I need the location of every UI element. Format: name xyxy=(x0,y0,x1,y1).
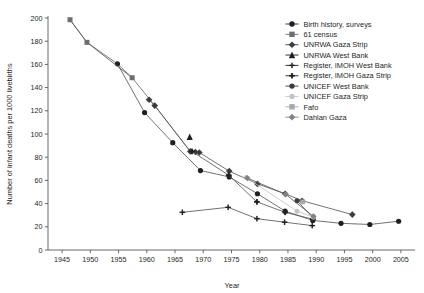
infant-mortality-line-chart: 0204060801001201401601802001945195019551… xyxy=(0,0,424,293)
x-tick-label: 1950 xyxy=(82,255,98,264)
data-point-marker xyxy=(284,219,285,225)
legend-marker-icon xyxy=(291,75,293,77)
data-point-marker xyxy=(142,110,147,115)
legend-marker-icon xyxy=(289,83,294,88)
data-point-marker xyxy=(198,168,203,173)
legend-marker-icon xyxy=(289,104,294,109)
chart-container: 0204060801001201401601802001945195019551… xyxy=(0,0,424,293)
legend-item-label: UNRWA West Bank xyxy=(304,51,369,60)
legend-item-label: Dahlan Gaza xyxy=(304,113,348,122)
data-point-marker xyxy=(68,17,73,22)
legend-item-label: UNICEF Gaza Strip xyxy=(304,92,368,101)
y-axis-title: Number of infant deaths per 1000 livebir… xyxy=(5,63,14,205)
x-tick-label: 1995 xyxy=(336,255,352,264)
data-point-marker xyxy=(294,209,299,214)
legend-item-label: UNICEF West Bank xyxy=(304,82,369,91)
x-tick-label: 2000 xyxy=(365,255,381,264)
x-tick-label: 1980 xyxy=(252,255,268,264)
x-tick-label: 2005 xyxy=(393,255,409,264)
data-point-marker xyxy=(130,75,135,80)
data-point-marker xyxy=(338,221,343,226)
y-tick-label: 40 xyxy=(35,199,43,208)
legend-marker-icon xyxy=(289,94,294,99)
x-axis-title: Year xyxy=(225,281,240,290)
data-point-marker xyxy=(396,219,401,224)
data-point-marker xyxy=(191,151,193,153)
data-point-marker xyxy=(170,140,175,145)
data-point-marker xyxy=(284,211,286,213)
x-tick-label: 1945 xyxy=(54,255,70,264)
y-tick-label: 100 xyxy=(31,130,43,139)
data-point-marker xyxy=(367,222,372,227)
legend-marker-icon xyxy=(289,21,294,26)
legend-item-label: Register, IMOH West Bank xyxy=(304,61,392,70)
x-tick-label: 1990 xyxy=(308,255,324,264)
x-tick-label: 1955 xyxy=(111,255,127,264)
data-point-marker xyxy=(256,216,257,222)
data-point-marker xyxy=(115,61,120,66)
y-tick-label: 80 xyxy=(35,153,43,162)
legend-marker-icon xyxy=(289,32,294,37)
data-point-marker xyxy=(256,201,258,203)
legend-marker-icon xyxy=(291,63,292,68)
data-point-marker xyxy=(300,199,305,204)
x-tick-label: 1975 xyxy=(224,255,240,264)
x-tick-label: 1970 xyxy=(195,255,211,264)
legend-item-label: Register, IMOH Gaza Strip xyxy=(304,71,391,80)
legend-item-label: Fafo xyxy=(304,103,319,112)
y-tick-label: 180 xyxy=(31,37,43,46)
data-point-marker xyxy=(255,191,260,196)
data-point-marker xyxy=(312,223,313,229)
legend-item-label: Birth history, surveys xyxy=(304,20,372,29)
y-tick-label: 140 xyxy=(31,83,43,92)
x-tick-label: 1960 xyxy=(139,255,155,264)
data-series xyxy=(300,199,305,204)
legend-item-label: 61 census xyxy=(304,30,338,39)
data-point-marker xyxy=(227,205,228,211)
data-point-marker xyxy=(84,40,89,45)
y-tick-label: 160 xyxy=(31,60,43,69)
legend-item-label: UNRWA Gaza Strip xyxy=(304,40,368,49)
y-tick-label: 0 xyxy=(39,246,43,255)
y-tick-label: 60 xyxy=(35,176,43,185)
y-tick-label: 200 xyxy=(31,14,43,23)
y-tick-label: 20 xyxy=(35,222,43,231)
x-tick-label: 1965 xyxy=(167,255,183,264)
y-tick-label: 120 xyxy=(31,106,43,115)
data-point-marker xyxy=(182,210,183,216)
data-point-marker xyxy=(228,174,230,176)
x-tick-label: 1985 xyxy=(280,255,296,264)
